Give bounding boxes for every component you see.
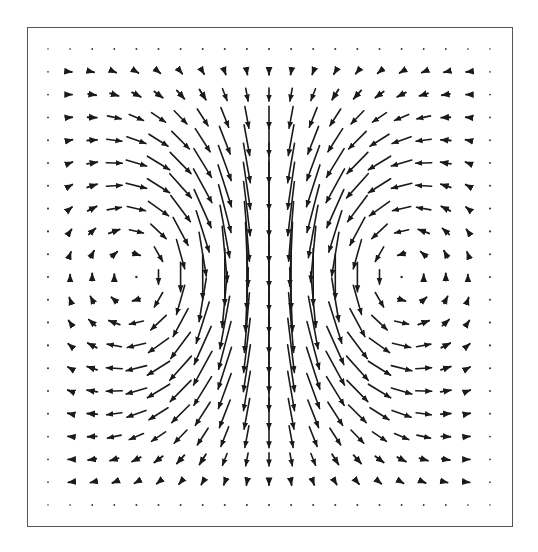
vector-dot <box>312 504 314 506</box>
vector-arrow <box>195 402 210 425</box>
vector-arrow <box>110 93 118 96</box>
vector-dot <box>47 94 49 96</box>
vector-arrow <box>441 162 451 164</box>
vector-arrow <box>68 413 73 414</box>
vector-dot <box>401 48 403 50</box>
vector-arrow <box>197 428 208 445</box>
vector-dot <box>489 253 491 255</box>
vector-dot <box>47 322 49 324</box>
vector-arrow <box>172 405 190 423</box>
vector-arrow <box>127 137 146 144</box>
vector-arrow <box>107 207 121 210</box>
vector-arrow <box>372 224 387 239</box>
vector-arrow <box>444 296 448 303</box>
vector-arrow <box>291 69 292 75</box>
vector-arrow <box>90 251 94 258</box>
vector-arrow <box>200 454 206 464</box>
vector-arrow <box>221 108 229 128</box>
vector-arrow <box>157 70 161 73</box>
vector-dot <box>445 504 447 506</box>
vector-arrow <box>201 70 204 75</box>
vector-arrow <box>89 320 96 326</box>
vector-arrow <box>224 480 226 485</box>
vector-arrow <box>334 480 337 485</box>
vector-dot <box>202 48 204 50</box>
vector-arrow <box>132 457 141 461</box>
vector-arrow <box>112 481 116 483</box>
vector-arrow <box>370 408 389 420</box>
vector-arrow <box>111 297 117 302</box>
vector-arrow <box>106 391 122 392</box>
vector-dot <box>356 504 358 506</box>
vector-dot <box>224 48 226 50</box>
vector-arrows-group <box>47 48 491 506</box>
vector-arrow <box>393 343 411 347</box>
vector-arrow <box>420 93 428 96</box>
vector-arrow <box>311 454 316 466</box>
vector-dot <box>268 48 270 50</box>
vector-arrow <box>68 344 72 347</box>
vector-arrow <box>68 207 72 210</box>
vector-dot <box>379 504 381 506</box>
vector-arrow <box>311 89 316 101</box>
vector-arrow <box>416 391 432 392</box>
vector-arrow <box>179 70 182 74</box>
vector-dot <box>69 504 71 506</box>
vector-arrow <box>332 454 338 464</box>
vector-arrow <box>177 90 185 98</box>
vector-arrow <box>417 207 431 210</box>
vector-arrow <box>378 70 382 73</box>
vector-arrow <box>111 252 117 257</box>
vector-arrow <box>422 71 426 73</box>
vector-arrow <box>106 185 122 186</box>
vector-arrow <box>219 126 230 154</box>
vector-dot <box>467 504 469 506</box>
vector-arrow <box>466 367 470 369</box>
vector-arrow <box>373 113 387 123</box>
vector-dot <box>489 322 491 324</box>
vector-dot <box>489 413 491 415</box>
vector-arrow <box>368 361 390 375</box>
vector-arrow <box>466 413 471 414</box>
vector-arrow <box>87 367 97 370</box>
vector-arrow <box>223 454 228 466</box>
vector-arrow <box>351 430 364 443</box>
vector-arrow <box>87 184 97 187</box>
vector-arrow <box>398 299 406 301</box>
vector-arrow <box>347 356 369 380</box>
vector-dot <box>489 367 491 369</box>
quiver-plot <box>0 0 538 552</box>
vector-arrow <box>87 414 97 415</box>
vector-dot <box>47 48 49 50</box>
vector-dot <box>135 48 137 50</box>
vector-arrow <box>392 410 411 417</box>
vector-arrow <box>400 71 404 73</box>
vector-arrow <box>375 247 383 262</box>
vector-arrow <box>347 380 368 401</box>
vector-dot <box>47 71 49 73</box>
vector-arrow <box>332 90 338 100</box>
vector-dot <box>224 504 226 506</box>
vector-arrow <box>88 94 96 95</box>
vector-arrow <box>391 388 411 394</box>
vector-arrow <box>378 481 382 484</box>
vector-arrow <box>154 247 162 262</box>
vector-dot <box>47 344 49 346</box>
vector-arrow <box>416 139 431 141</box>
vector-arrow <box>151 315 166 330</box>
vector-arrow <box>443 320 450 326</box>
vector-arrow <box>416 368 432 369</box>
vector-arrow <box>354 455 362 463</box>
vector-dot <box>423 48 425 50</box>
vector-arrow <box>400 481 404 483</box>
vector-arrow <box>149 408 168 420</box>
vector-dot <box>47 390 49 392</box>
vector-dot <box>489 94 491 96</box>
vector-arrow <box>356 70 359 74</box>
vector-arrow <box>351 111 364 124</box>
vector-arrow <box>308 400 319 428</box>
vector-dot <box>47 253 49 255</box>
vector-dot <box>290 504 292 506</box>
vector-dot <box>246 48 248 50</box>
vector-arrow <box>90 71 94 72</box>
